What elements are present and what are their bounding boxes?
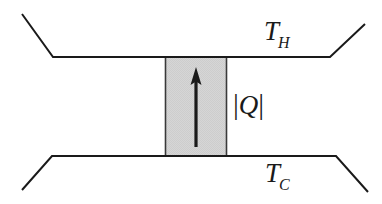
heat-symbol: Q — [239, 90, 259, 120]
heat-magnitude-label: |Q| — [233, 90, 264, 119]
hot-temperature-symbol: T — [264, 16, 279, 46]
heat-flow-diagram: TH TC |Q| — [0, 0, 382, 204]
hot-temperature-label: TH — [264, 18, 291, 47]
cold-temperature-subscript: C — [279, 176, 290, 193]
hot-temperature-subscript: H — [278, 34, 290, 51]
cold-temperature-symbol: T — [265, 158, 280, 188]
cold-temperature-label: TC — [265, 160, 291, 189]
diagram-canvas — [0, 0, 382, 204]
heat-right-bar: | — [258, 88, 264, 120]
